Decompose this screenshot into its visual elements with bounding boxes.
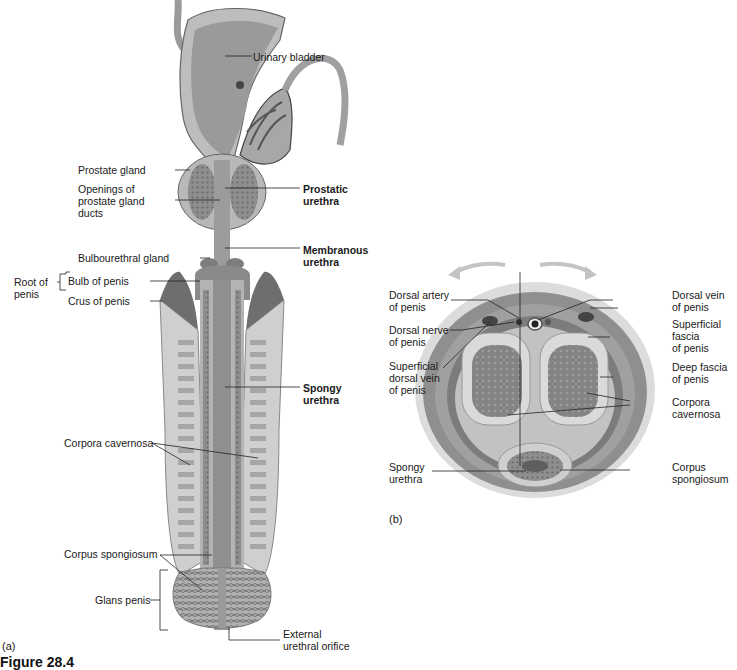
label-bulbourethral-gland: Bulbourethral gland	[78, 252, 169, 264]
label-prostate-gland: Prostate gland	[78, 164, 146, 176]
panel-b-label: (b)	[389, 513, 402, 525]
label-bulb-of-penis: Bulb of penis	[68, 275, 129, 287]
label-corpus-spongiosum-a: Corpus spongiosum	[64, 548, 157, 560]
label-root-of-penis: Root of penis	[14, 276, 48, 300]
label-external-urethral-orifice: External urethral orifice	[283, 628, 350, 652]
label-openings-prostate-ducts: Openings of prostate gland ducts	[78, 183, 145, 219]
label-deep-fascia: Deep fascia of penis	[672, 361, 727, 385]
label-membranous-urethra: Membranous urethra	[303, 244, 368, 268]
figure-caption: Figure 28.4	[0, 654, 74, 670]
label-dorsal-vein: Dorsal vein of penis	[672, 289, 725, 313]
cross-section-diagram	[415, 264, 655, 498]
panel-a-label: (a)	[2, 640, 15, 652]
longitudinal-section-diagram	[160, 0, 345, 630]
label-prostatic-urethra: Prostatic urethra	[303, 183, 348, 207]
label-urinary-bladder: Urinary bladder	[253, 51, 325, 63]
label-superficial-fascia: Superficial fascia of penis	[672, 318, 721, 354]
label-superficial-dorsal-vein: Superficial dorsal vein of penis	[389, 360, 440, 396]
label-spongy-urethra-b: Spongy urethra	[389, 461, 425, 485]
label-corpora-cavernosa-a: Corpora cavernosa	[64, 437, 153, 449]
label-spongy-urethra-a: Spongy urethra	[303, 382, 342, 406]
label-corpora-cavernosa-b: Corpora cavernosa	[672, 396, 720, 420]
label-dorsal-nerve: Dorsal nerve of penis	[389, 324, 449, 348]
label-dorsal-artery: Dorsal artery of penis	[389, 289, 449, 313]
label-glans-penis: Glans penis	[95, 594, 150, 606]
label-corpus-spongiosum-b: Corpus spongiosum	[672, 461, 729, 485]
label-crus-of-penis: Crus of penis	[68, 295, 130, 307]
